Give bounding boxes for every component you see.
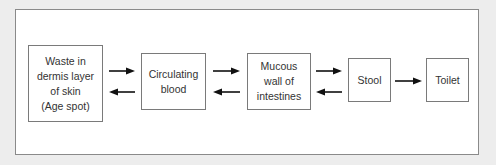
node-label: Stool (358, 73, 382, 88)
node-label: Toilet (435, 73, 460, 88)
arrow-right-icon (213, 67, 240, 75)
arrow-left-icon (213, 88, 240, 96)
node-mucous-wall: Mucous wall of intestines (247, 53, 311, 110)
node-toilet: Toilet (426, 58, 469, 102)
arrow-right-icon (395, 77, 422, 85)
arrow-right-icon (109, 67, 135, 75)
arrow-right-icon (316, 67, 342, 75)
node-circulating-blood: Circulating blood (141, 53, 206, 110)
node-label: Mucous wall of intestines (257, 59, 301, 104)
node-stool: Stool (348, 58, 391, 102)
node-waste-in-dermis: Waste in dermis layer of skin (Age spot) (28, 45, 103, 122)
node-label: Circulating blood (149, 67, 199, 97)
arrow-left-icon (109, 88, 135, 96)
arrow-left-icon (316, 88, 342, 96)
node-label: Waste in dermis layer of skin (Age spot) (37, 54, 94, 114)
